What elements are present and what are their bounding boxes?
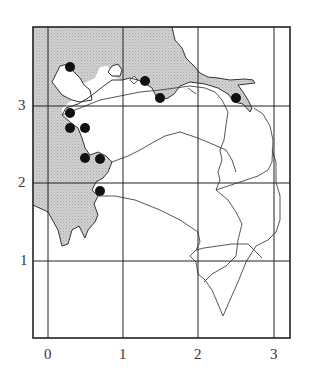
site-dot	[95, 154, 105, 164]
site-dot	[65, 62, 75, 72]
site-dot	[80, 123, 90, 133]
y-tick-1: 1	[20, 253, 28, 268]
site-dot	[95, 186, 105, 196]
y-tick-3: 3	[18, 98, 26, 113]
y-tick-2: 2	[18, 175, 26, 190]
x-tick-3: 3	[270, 347, 278, 362]
x-tick-2: 2	[194, 347, 202, 362]
x-tick-1: 1	[119, 347, 127, 362]
site-dot	[140, 76, 150, 86]
site-dot	[65, 123, 75, 133]
sea-area	[33, 27, 255, 246]
site-dot	[155, 93, 165, 103]
map	[0, 0, 309, 380]
site-dot	[80, 153, 90, 163]
x-tick-0: 0	[44, 347, 52, 362]
site-dot	[231, 93, 241, 103]
site-dot	[65, 108, 75, 118]
